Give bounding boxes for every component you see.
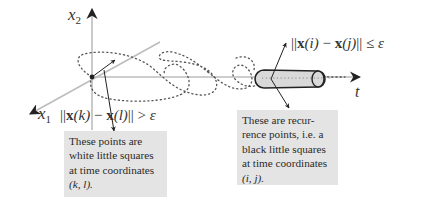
minus: − bbox=[90, 107, 106, 123]
note-line: These are recur- bbox=[242, 113, 333, 127]
x1-subscript: 1 bbox=[46, 113, 52, 125]
epsilon: ε bbox=[378, 35, 384, 51]
x-vector: x bbox=[66, 107, 74, 123]
x-vector: x bbox=[106, 107, 114, 123]
x2-subscript: 2 bbox=[76, 14, 82, 26]
note-line: white little squares bbox=[69, 148, 162, 162]
note-line: rence points, i.e. a bbox=[242, 127, 333, 141]
note-line: (i, j). bbox=[242, 171, 333, 185]
greater-than: > bbox=[134, 107, 150, 123]
epsilon: ε bbox=[150, 107, 156, 123]
non-recurrence-condition: ||x(k) − x(l)|| > ε bbox=[60, 108, 156, 123]
note-line: (k, l). bbox=[69, 177, 162, 191]
less-equal: ≤ bbox=[362, 35, 378, 51]
t-axis-label: t bbox=[355, 84, 359, 100]
x-vector: x bbox=[297, 35, 305, 51]
note-line: black little squares bbox=[242, 142, 333, 156]
x2-axis-label: x2 bbox=[68, 6, 81, 26]
note-line: at time coordinates bbox=[69, 163, 162, 177]
t-symbol: t bbox=[355, 83, 359, 100]
recurrence-condition: ||x(i) − x(j)|| ≤ ε bbox=[291, 36, 384, 51]
x2-symbol: x bbox=[68, 5, 76, 24]
arg-k: (k) bbox=[74, 107, 91, 123]
minus: − bbox=[319, 35, 335, 51]
x1-symbol: x bbox=[38, 104, 46, 123]
recurrence-note: These are recur- rence points, i.e. a bl… bbox=[237, 110, 338, 185]
x1-axis-label: x1 bbox=[38, 105, 51, 125]
recurrence-tube bbox=[255, 70, 330, 88]
arg-l: (l) bbox=[114, 107, 128, 123]
note-line: at time coordinates bbox=[242, 156, 333, 170]
note-line: These points are bbox=[69, 134, 162, 148]
arg-j: (j) bbox=[342, 35, 356, 51]
arg-i: (i) bbox=[305, 35, 319, 51]
non-recurrence-note: These points are white little squares at… bbox=[64, 131, 167, 197]
